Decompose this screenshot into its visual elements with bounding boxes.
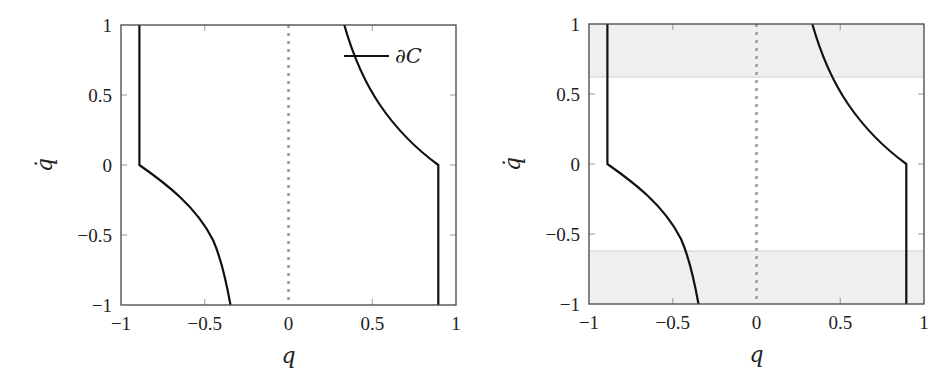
x-tick: 1: [919, 312, 929, 333]
x-tick: −1: [579, 312, 599, 333]
y-tick: −1: [92, 295, 112, 316]
x-tick: 0.5: [360, 313, 384, 334]
y-tick: 0.5: [556, 84, 580, 105]
y-tick: −0.5: [78, 225, 112, 246]
figure: ∂C 1 0.5 0 −0.5 −1 −1 −0.5 0 0.5 1 q q̇: [0, 0, 951, 384]
right-plot: 1 0.5 0 −0.5 −1 −1 −0.5 0 0.5 1 q q̇: [500, 14, 929, 367]
y-tick: 0: [571, 154, 581, 175]
y-tick: −1: [560, 294, 580, 315]
x-axis-label: q: [281, 343, 295, 368]
x-tick: −1: [111, 313, 131, 334]
y-tick: 1: [571, 14, 581, 35]
y-axis-label: q̇: [32, 158, 57, 172]
x-tick: −0.5: [656, 312, 690, 333]
y-tick: 1: [103, 15, 113, 36]
x-tick: 0: [284, 313, 294, 334]
legend-label: ∂C: [395, 44, 422, 68]
y-tick: −0.5: [546, 224, 580, 245]
x-tick: 0: [752, 312, 762, 333]
x-tick: −0.5: [188, 313, 222, 334]
y-axis-label: q̇: [500, 157, 525, 171]
y-tick: 0: [103, 155, 113, 176]
x-tick: 0.5: [828, 312, 852, 333]
boundary-curve-right: [344, 25, 438, 305]
left-plot: ∂C 1 0.5 0 −0.5 −1 −1 −0.5 0 0.5 1 q q̇: [32, 15, 461, 368]
y-tick: 0.5: [88, 85, 112, 106]
x-tick: 1: [451, 313, 461, 334]
legend: ∂C: [344, 44, 422, 68]
x-axis-label: q: [749, 342, 763, 367]
